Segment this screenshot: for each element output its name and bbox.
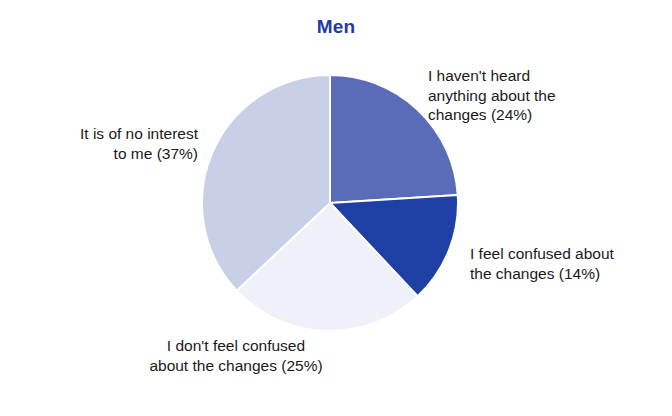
slice-label-not-heard: I haven't heard anything about the chang… [428, 66, 608, 125]
slice-label-confused: I feel confused about the changes (14%) [470, 244, 670, 283]
pie-slices-group [202, 75, 458, 331]
pie-chart: Men I haven't heard anything about the c… [0, 0, 672, 416]
slice-label-no-interest: It is of no interest to me (37%) [18, 124, 198, 163]
slice-label-not-confused: I don't feel confused about the changes … [116, 336, 356, 375]
